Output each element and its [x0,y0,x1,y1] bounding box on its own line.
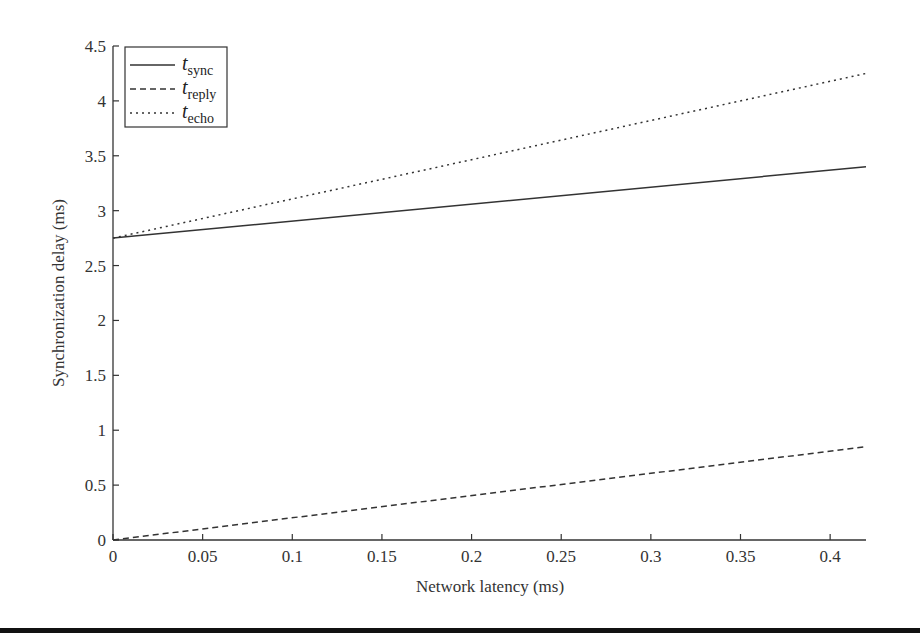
y-tick-label: 3.5 [85,147,106,166]
bottom-rule-divider [0,628,920,633]
line-chart: 00.511.522.533.544.500.050.10.150.20.250… [0,0,920,640]
legend: tsynctreplytecho [125,47,227,127]
y-tick-label: 2 [98,311,107,330]
x-tick-label: 0.35 [726,547,756,566]
series-t-reply-line [113,447,866,540]
x-tick-label: 0.05 [188,547,218,566]
x-tick-label: 0.2 [461,547,482,566]
x-tick-label: 0.4 [820,547,842,566]
x-tick-label: 0.3 [640,547,661,566]
y-tick-label: 1 [98,421,107,440]
x-tick-label: 0.1 [282,547,303,566]
y-tick-label: 2.5 [85,257,106,276]
y-tick-label: 4.5 [85,37,106,56]
series-t-sync-line [113,167,866,238]
x-tick-label: 0.25 [546,547,576,566]
y-tick-label: 4 [98,92,107,111]
y-tick-label: 3 [98,202,107,221]
x-tick-label: 0.15 [367,547,397,566]
y-tick-label: 0 [98,531,107,550]
series-lines [113,73,866,540]
x-axis-label: Network latency (ms) [416,577,564,596]
y-tick-label: 0.5 [85,476,106,495]
y-tick-label: 1.5 [85,366,106,385]
y-axis-label: Synchronization delay (ms) [49,199,68,387]
x-tick-label: 0 [109,547,118,566]
